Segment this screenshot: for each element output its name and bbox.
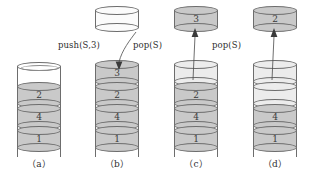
disc-label: 1	[174, 135, 218, 144]
disc-label: 1	[17, 135, 61, 144]
stack-panel-d: 412pop(S)（d）	[236, 0, 314, 180]
floating-disc-b	[95, 6, 139, 32]
disc-top-ellipse	[95, 6, 139, 15]
disc-label: 3	[174, 15, 218, 24]
stack-disc-1: 1	[95, 126, 139, 152]
disc-label: 1	[95, 135, 139, 144]
panel-caption-d: （d）	[236, 157, 314, 170]
panel-caption-b: （b）	[78, 157, 156, 170]
disc-bottom-ellipse	[17, 143, 61, 152]
cylinder-rim-inner	[21, 65, 59, 71]
stack-disc-1: 1	[17, 126, 61, 152]
disc-bottom-ellipse	[174, 23, 218, 32]
stack-disc-1: 1	[253, 126, 297, 152]
disc-top-ellipse	[253, 82, 297, 91]
disc-label: 2	[95, 91, 139, 100]
disc-bottom-ellipse	[95, 143, 139, 152]
floating-disc-d: 2	[253, 6, 297, 32]
disc-bottom-ellipse	[253, 23, 297, 32]
disc-label: 2	[253, 15, 297, 24]
disc-label: 4	[174, 113, 218, 122]
operation-label-c: pop(S)	[133, 40, 162, 50]
disc-top-ellipse	[174, 60, 218, 69]
panel-caption-c: （c）	[157, 157, 235, 170]
disc-bottom-ellipse	[174, 143, 218, 152]
figure-stage: 241（a）3241push(S,3)（b）2413pop(S)（c）412po…	[0, 0, 314, 180]
operation-label-d: pop(S)	[212, 40, 241, 50]
disc-bottom-ellipse	[253, 143, 297, 152]
disc-label: 4	[253, 113, 297, 122]
floating-disc-c: 3	[174, 6, 218, 32]
disc-label: 4	[17, 113, 61, 122]
disc-label: 2	[174, 91, 218, 100]
disc-label: 4	[95, 113, 139, 122]
stack-panel-c: 2413pop(S)（c）	[157, 0, 235, 180]
operation-label-b: push(S,3)	[58, 40, 100, 50]
disc-bottom-ellipse	[95, 23, 139, 32]
cylinder-rim	[17, 62, 61, 71]
stack-panel-a: 241（a）	[0, 0, 78, 180]
disc-label: 1	[253, 135, 297, 144]
stack-disc-1: 1	[174, 126, 218, 152]
stack-panel-b: 3241push(S,3)（b）	[78, 0, 156, 180]
disc-label: 2	[17, 91, 61, 100]
panel-caption-a: （a）	[0, 157, 78, 170]
disc-top-ellipse	[253, 60, 297, 69]
disc-label: 3	[95, 69, 139, 78]
